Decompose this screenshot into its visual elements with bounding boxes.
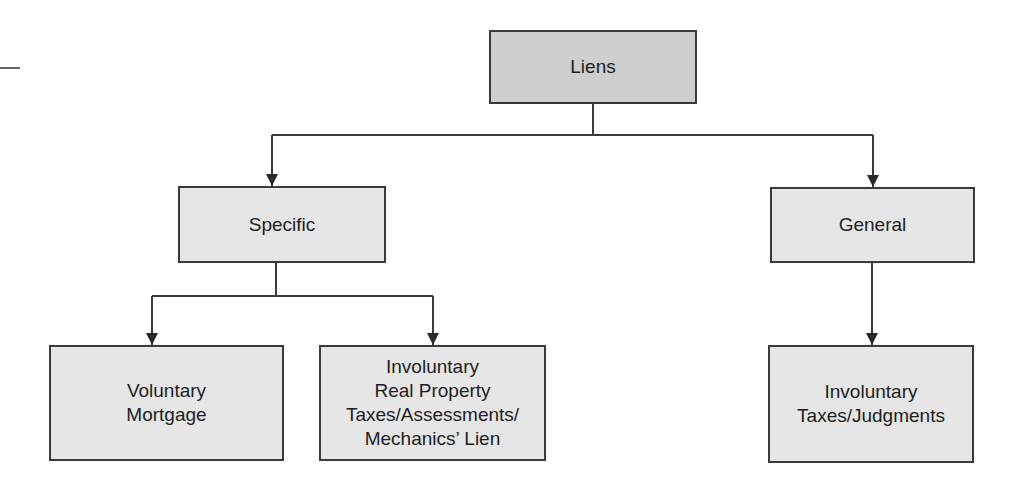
node-liens: Liens (489, 30, 697, 104)
node-involuntary-real-property: Involuntary Real Property Taxes/Assessme… (319, 345, 546, 461)
node-involuntary-taxes-judgments: Involuntary Taxes/Judgments (768, 345, 974, 463)
node-specific: Specific (178, 186, 386, 263)
node-specific-label: Specific (249, 213, 316, 237)
node-voluntary-mortgage: Voluntary Mortgage (49, 345, 284, 461)
node-involuntary-real-property-label: Involuntary Real Property Taxes/Assessme… (346, 355, 519, 451)
node-voluntary-mortgage-label: Voluntary Mortgage (126, 379, 206, 427)
node-general-label: General (839, 213, 907, 237)
node-general: General (770, 187, 975, 263)
node-involuntary-taxes-judgments-label: Involuntary Taxes/Judgments (797, 380, 945, 428)
node-liens-label: Liens (570, 55, 615, 79)
